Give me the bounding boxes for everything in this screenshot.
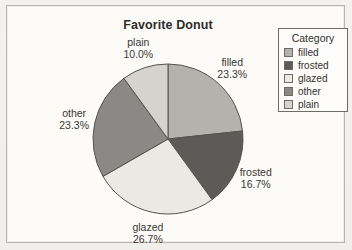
slice-label-percent-other: 23.3% bbox=[59, 119, 89, 131]
slice-label-name-plain: plain bbox=[127, 36, 149, 48]
slice-label-percent-filled: 23.3% bbox=[217, 68, 247, 80]
legend-item-frosted: frosted bbox=[279, 59, 347, 72]
page-background: Favorite Donut filled23.3%frosted16.7%gl… bbox=[0, 0, 352, 250]
slice-label-percent-frosted: 16.7% bbox=[241, 178, 271, 190]
legend-label-plain: plain bbox=[298, 98, 319, 111]
legend-items: filledfrostedglazedotherplain bbox=[279, 46, 347, 111]
slice-label-name-frosted: frosted bbox=[240, 166, 272, 178]
legend-swatch-frosted bbox=[284, 61, 293, 70]
legend-item-plain: plain bbox=[279, 98, 347, 111]
slice-label-percent-plain: 10.0% bbox=[123, 48, 153, 60]
legend-item-filled: filled bbox=[279, 46, 347, 59]
legend-swatch-other bbox=[284, 87, 293, 96]
chart-frame: Favorite Donut filled23.3%frosted16.7%gl… bbox=[6, 5, 345, 243]
legend-swatch-filled bbox=[284, 48, 293, 57]
legend-label-frosted: frosted bbox=[298, 59, 329, 72]
legend-item-other: other bbox=[279, 85, 347, 98]
slice-label-percent-glazed: 26.7% bbox=[133, 233, 163, 245]
legend-box: Category filledfrostedglazedotherplain bbox=[278, 28, 348, 112]
legend-item-glazed: glazed bbox=[279, 72, 347, 85]
legend-label-glazed: glazed bbox=[298, 72, 327, 85]
slice-label-name-other: other bbox=[62, 107, 86, 119]
slice-label-name-glazed: glazed bbox=[132, 221, 163, 233]
legend-swatch-plain bbox=[284, 100, 293, 109]
legend-title: Category bbox=[279, 32, 347, 44]
slice-label-name-filled: filled bbox=[221, 56, 243, 68]
legend-label-filled: filled bbox=[298, 46, 319, 59]
legend-label-other: other bbox=[298, 85, 321, 98]
legend-swatch-glazed bbox=[284, 74, 293, 83]
